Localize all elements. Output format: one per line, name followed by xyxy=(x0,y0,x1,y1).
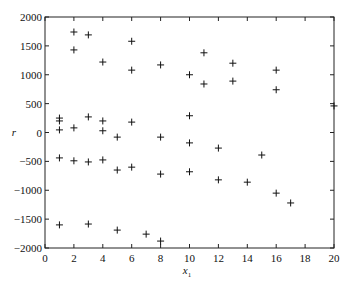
data-point-plus xyxy=(200,49,207,56)
data-point-plus xyxy=(229,78,236,85)
y-tick-label: 1000 xyxy=(20,69,43,81)
data-point-plus xyxy=(273,67,280,74)
data-point-plus xyxy=(99,127,106,134)
data-point-plus xyxy=(157,61,164,68)
y-tick-label: 0 xyxy=(37,127,43,139)
plot-area xyxy=(45,17,334,248)
data-point-plus xyxy=(70,29,77,36)
y-tick-label: −500 xyxy=(19,155,42,167)
data-point-plus xyxy=(114,167,121,174)
data-point-plus xyxy=(244,179,251,186)
data-point-plus xyxy=(56,154,63,161)
data-point-plus xyxy=(128,38,135,45)
data-point-plus xyxy=(99,156,106,163)
data-point-plus xyxy=(186,71,193,78)
x-axis: 02468101214161820 xyxy=(42,17,340,264)
x-tick-label: 16 xyxy=(271,252,283,264)
x-tick-label: 20 xyxy=(329,252,341,264)
data-point-plus xyxy=(85,31,92,38)
data-point-plus xyxy=(128,119,135,126)
data-point-plus xyxy=(85,113,92,120)
data-point-plus xyxy=(186,139,193,146)
data-point-plus xyxy=(143,231,150,238)
data-point-plus xyxy=(70,124,77,131)
data-point-plus xyxy=(157,238,164,245)
data-point-plus xyxy=(56,221,63,228)
y-tick-label: −1500 xyxy=(14,213,43,225)
data-point-plus xyxy=(157,171,164,178)
data-point-plus xyxy=(215,145,222,152)
x-tick-label: 4 xyxy=(100,252,106,264)
data-point-plus xyxy=(70,46,77,53)
y-tick-label: −1000 xyxy=(14,184,43,196)
data-point-plus xyxy=(56,126,63,133)
data-point-plus xyxy=(128,67,135,74)
y-tick-label: 500 xyxy=(26,98,43,110)
data-point-plus xyxy=(99,117,106,124)
x-tick-label: 10 xyxy=(184,252,196,264)
data-point-plus xyxy=(157,134,164,141)
data-point-plus xyxy=(114,134,121,141)
data-point-plus xyxy=(258,152,265,159)
x-axis-label: x1 xyxy=(182,264,192,279)
data-point-plus xyxy=(186,168,193,175)
data-point-plus xyxy=(114,227,121,234)
y-tick-label: 2000 xyxy=(20,11,43,23)
x-tick-label: 8 xyxy=(158,252,164,264)
x-tick-label: 18 xyxy=(300,252,312,264)
data-points xyxy=(56,29,338,245)
y-tick-label: −2000 xyxy=(14,242,43,254)
data-point-plus xyxy=(215,176,222,183)
y-tick-label: 1500 xyxy=(20,40,43,52)
y-axis-label: r xyxy=(12,126,17,138)
data-point-plus xyxy=(186,112,193,119)
x-tick-label: 0 xyxy=(42,252,48,264)
data-point-plus xyxy=(200,80,207,87)
data-point-plus xyxy=(273,86,280,93)
x-tick-label: 14 xyxy=(242,252,254,264)
data-point-plus xyxy=(273,190,280,197)
y-axis: 2000150010005000−500−1000−1500−2000 xyxy=(14,11,334,254)
data-point-plus xyxy=(229,60,236,67)
data-point-plus xyxy=(70,157,77,164)
data-point-plus xyxy=(99,59,106,66)
data-point-plus xyxy=(128,164,135,171)
x-tick-label: 2 xyxy=(71,252,77,264)
scatter-chart: 02468101214161820 2000150010005000−500−1… xyxy=(0,0,352,285)
x-tick-label: 12 xyxy=(213,252,224,264)
data-point-plus xyxy=(85,158,92,165)
data-point-plus xyxy=(85,221,92,228)
data-point-plus xyxy=(287,199,294,206)
x-tick-label: 6 xyxy=(129,252,135,264)
